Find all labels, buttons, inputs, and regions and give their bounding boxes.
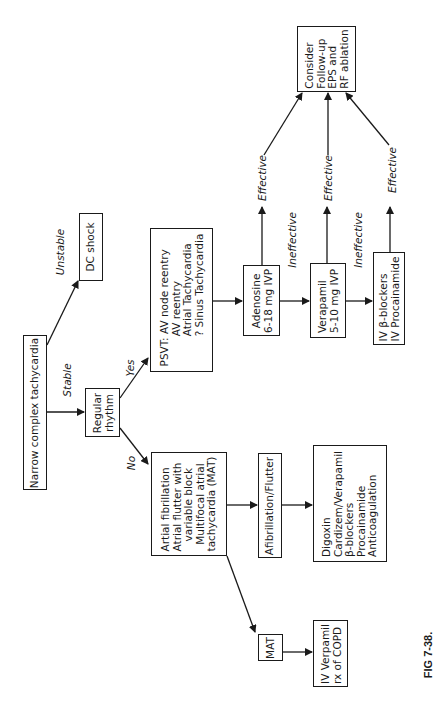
node-label: Verapamil 5-10 mg IVP: [317, 268, 340, 332]
node-label: PSVT: AV node reentry AV reentry Atrial …: [159, 234, 205, 367]
node-label: Consider Follow-up EPS and RF ablation: [304, 29, 350, 88]
node-label: Artial fibrillation Atrial flutter with …: [160, 457, 218, 552]
node-psvt: PSVT: AV node reentry AV reentry Atrial …: [150, 228, 213, 372]
edge-label-effective-1: Effective: [256, 155, 268, 201]
node-label: Narrow complex tachycardia: [29, 337, 41, 487]
node-label: Regular rhythm: [91, 392, 114, 432]
node-label: DC shock: [85, 222, 97, 271]
node-label: IV β-blockers IV Procainamide: [378, 256, 401, 341]
connector-lines: [0, 0, 434, 707]
node-afib-flutter: Afibrillation/Flutter: [258, 453, 282, 558]
edge-label-effective-3: Effective: [386, 147, 398, 193]
edge-label-effective-2: Effective: [322, 155, 334, 201]
edge-label-ineffective-2: Ineffective: [352, 212, 364, 268]
node-afib-treatment: Digoxin Cardizem/Verapamil β-blockers Pr…: [313, 445, 387, 562]
edge-label-unstable: Unstable: [54, 229, 66, 275]
node-dc-shock: DC shock: [79, 213, 103, 281]
node-label: Digoxin Cardizem/Verapamil β-blockers Pr…: [321, 451, 379, 557]
node-verapamil: Verapamil 5-10 mg IVP: [310, 263, 346, 338]
edge-label-stable: Stable: [61, 363, 73, 396]
node-narrow-complex-tachycardia: Narrow complex tachycardia: [23, 335, 47, 490]
node-label: MAT: [265, 637, 277, 659]
node-irregular-rhythms: Artial fibrillation Atrial flutter with …: [151, 452, 227, 556]
figure-caption: FIG 7-38.: [422, 632, 434, 678]
node-label: IV Verpamil rx of COPD: [319, 624, 342, 684]
node-label: Adenosine 6-18 mg IVP: [250, 268, 273, 332]
node-adenosine: Adenosine 6-18 mg IVP: [243, 265, 280, 336]
edge-label-no: No: [125, 456, 137, 470]
arrow-unstable: [47, 281, 78, 345]
node-iv-beta-blockers: IV β-blockers IV Procainamide: [373, 252, 405, 345]
node-mat: MAT: [258, 634, 283, 661]
node-mat-treatment: IV Verpamil rx of COPD: [313, 620, 348, 687]
edge-label-ineffective-1: Ineffective: [286, 212, 298, 268]
node-consider-ablation: Consider Follow-up EPS and RF ablation: [297, 26, 356, 92]
node-label: Afibrillation/Flutter: [264, 456, 276, 554]
edge-label-yes: Yes: [124, 359, 136, 376]
node-regular-rhythm: Regular rhythm: [85, 388, 120, 437]
